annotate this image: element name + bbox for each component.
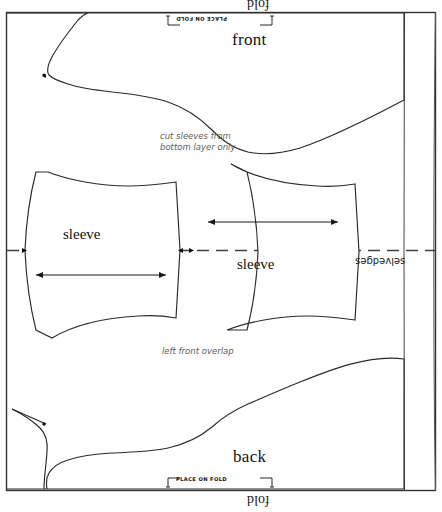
sleeve-left-outline <box>25 172 180 338</box>
note-left-front-overlap: left front overlap <box>162 346 234 357</box>
piece-label-front: front <box>232 30 267 50</box>
cutting-layout-diagram: fold fold selvedges PLACE ON FOLD PLACE … <box>0 0 442 512</box>
piece-label-sleeve-left: sleeve <box>63 226 100 243</box>
note-cut-sleeves-line2: bottom layer only <box>160 142 235 153</box>
note-cut-sleeves: cut sleeves from bottom layer only <box>160 131 235 153</box>
fold-label-bottom: fold <box>247 492 270 508</box>
pattern-piece-sleeve-left <box>22 172 183 338</box>
note-cut-sleeves-line1: cut sleeves from <box>160 131 235 142</box>
back-notch-dot <box>42 422 45 425</box>
place-on-fold-label-top: PLACE ON FOLD <box>176 16 227 22</box>
selvedges-label: selvedges <box>355 256 405 267</box>
fold-label-top: fold <box>247 0 270 12</box>
place-on-fold-label-bottom: PLACE ON FOLD <box>176 476 227 482</box>
piece-label-back: back <box>233 447 266 467</box>
piece-label-sleeve-right: sleeve <box>237 256 274 273</box>
